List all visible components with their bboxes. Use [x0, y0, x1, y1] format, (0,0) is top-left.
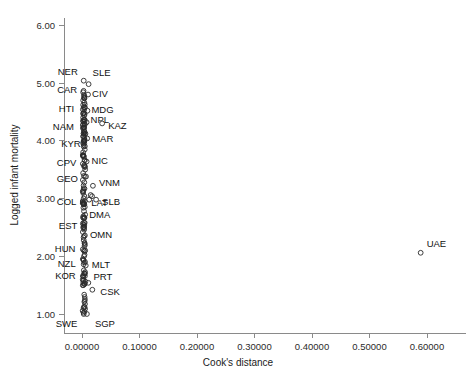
x-axis-title: Cook's distance	[203, 357, 274, 368]
data-point	[91, 183, 96, 188]
point-label: GEO	[57, 173, 78, 184]
data-point	[418, 250, 423, 255]
point-label: NIC	[92, 155, 109, 166]
data-point	[81, 78, 86, 83]
point-label: KYR	[61, 138, 81, 149]
point-label: SWE	[56, 318, 78, 329]
y-tick-label: 4.00	[37, 135, 56, 146]
point-label: VNM	[99, 177, 120, 188]
point-label: SGP	[95, 318, 115, 329]
y-tick-label: 5.00	[37, 78, 56, 89]
x-tick-label: 0.60000	[410, 341, 444, 352]
point-label: SLE	[93, 67, 111, 78]
data-points	[80, 78, 423, 316]
point-label: NAM	[53, 121, 74, 132]
cooks-distance-scatter-chart: 1.002.003.004.005.006.000.000000.100000.…	[0, 0, 476, 380]
x-tick-label: 0.00000	[65, 341, 99, 352]
point-label: MAR	[92, 133, 113, 144]
point-label: CAR	[57, 84, 77, 95]
point-label: EST	[59, 220, 78, 231]
y-tick-label: 1.00	[37, 309, 56, 320]
point-label: CIV	[92, 88, 109, 99]
data-point	[86, 82, 91, 87]
y-axis-title: Logged infant mortality	[9, 124, 20, 225]
y-tick-label: 2.00	[37, 251, 56, 262]
point-label: COL	[57, 196, 77, 207]
point-label: NZL	[58, 258, 76, 269]
point-label: NPL	[91, 114, 109, 125]
point-label: SLB	[102, 196, 120, 207]
point-label: MLT	[92, 259, 110, 270]
y-tick-label: 6.00	[37, 20, 56, 31]
point-label: DMA	[89, 209, 111, 220]
point-label: CSK	[100, 286, 120, 297]
point-label: PRT	[93, 271, 112, 282]
point-label: UAE	[427, 238, 447, 249]
point-labels: NERSLECARCIVHTIMDGNPLKAZNAMMARKYRNICCPVG…	[53, 66, 446, 329]
point-label: KOR	[55, 270, 76, 281]
plot-area: 1.002.003.004.005.006.000.000000.100000.…	[0, 0, 476, 380]
point-label: MDG	[91, 104, 113, 115]
x-tick-label: 0.20000	[180, 341, 214, 352]
x-tick-label: 0.30000	[237, 341, 271, 352]
data-point	[90, 287, 95, 292]
point-label: OMN	[90, 229, 112, 240]
point-label: NER	[58, 66, 78, 77]
point-label: HUN	[55, 243, 76, 254]
y-tick-label: 3.00	[37, 193, 56, 204]
point-label: HTI	[59, 103, 74, 114]
x-tick-label: 0.10000	[122, 341, 156, 352]
x-tick-label: 0.40000	[295, 341, 329, 352]
point-label: CPV	[57, 157, 77, 168]
point-label: KAZ	[108, 120, 127, 131]
x-tick-label: 0.50000	[352, 341, 386, 352]
